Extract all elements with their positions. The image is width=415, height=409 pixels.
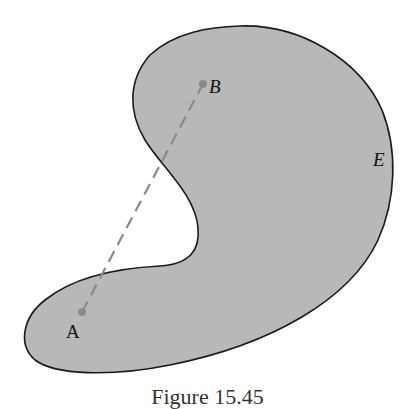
point-a xyxy=(78,308,86,316)
point-b-label: B xyxy=(209,77,221,96)
figure-caption: Figure 15.45 xyxy=(0,386,415,408)
point-b xyxy=(199,80,207,88)
region-e-label: E xyxy=(373,150,385,169)
point-a-label: A xyxy=(66,322,80,341)
